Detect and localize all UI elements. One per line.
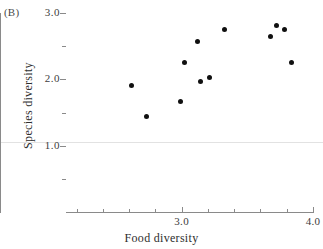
- scatter-plot-figure: (B) 1.02.03.0 3.04.0 Food diversity Spec…: [0, 0, 323, 249]
- data-point: [195, 39, 200, 44]
- data-point: [129, 83, 134, 88]
- x-tick-minor: [103, 209, 104, 213]
- y-tick-major: [60, 146, 66, 147]
- y-ticklabel: 1.0: [45, 139, 60, 151]
- y-tick-major: [60, 13, 66, 14]
- data-point: [207, 75, 212, 80]
- panel-label: (B): [4, 6, 19, 18]
- x-tick-minor: [155, 209, 156, 213]
- x-tick-minor: [287, 209, 288, 213]
- data-point: [198, 79, 203, 84]
- x-tick-major: [182, 207, 183, 213]
- x-tick-minor: [77, 209, 78, 213]
- y-ticklabel: 3.0: [45, 6, 60, 18]
- y-ticklabel: 2.0: [45, 72, 60, 84]
- data-point: [178, 99, 183, 104]
- data-point: [282, 27, 287, 32]
- x-tick-minor: [129, 209, 130, 213]
- x-tick-minor: [208, 209, 209, 213]
- x-ticklabel: 4.0: [306, 215, 321, 227]
- data-point: [182, 60, 187, 65]
- y-tick-minor: [62, 46, 66, 47]
- x-tick-minor: [260, 209, 261, 213]
- x-ticklabel: 3.0: [174, 215, 189, 227]
- y-tick-major: [60, 79, 66, 80]
- y-tick-minor: [62, 113, 66, 114]
- y-tick-minor: [62, 179, 66, 180]
- data-point: [274, 23, 279, 28]
- x-tick-major: [313, 207, 314, 213]
- data-point: [289, 60, 294, 65]
- data-point: [268, 34, 273, 39]
- y-axis-line: [0, 13, 1, 213]
- data-point: [222, 27, 227, 32]
- data-point: [144, 114, 149, 119]
- x-tick-minor: [234, 209, 235, 213]
- y-axis-title: Species diversity: [21, 36, 36, 176]
- x-axis-title: Food diversity: [0, 231, 323, 246]
